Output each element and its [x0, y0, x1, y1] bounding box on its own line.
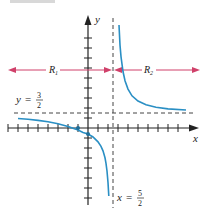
y-axis	[84, 15, 92, 205]
rational-function-graph: y x y = 3 2 x = 5 2 R1 R2	[0, 0, 210, 216]
svg-text:5: 5	[138, 189, 142, 198]
svg-text:2: 2	[138, 199, 142, 208]
curve-left-branch	[18, 119, 109, 197]
region-r2-arrow	[114, 67, 200, 73]
svg-text:=: =	[25, 93, 31, 105]
svg-text:3: 3	[37, 91, 41, 100]
cut-heading	[10, 0, 55, 3]
x-intercept-point	[76, 126, 80, 130]
svg-text:=: =	[126, 191, 132, 203]
svg-text:x: x	[116, 191, 122, 203]
svg-text:y: y	[15, 93, 21, 105]
region-r1-arrow	[8, 67, 112, 73]
curve-right-branch	[119, 25, 186, 110]
arrow-left-icon	[114, 67, 122, 73]
region-r2-label: R2	[143, 64, 153, 76]
arrow-right-icon	[192, 67, 200, 73]
arrow-left-icon	[8, 67, 16, 73]
svg-text:2: 2	[37, 101, 41, 110]
y-intercept-point	[86, 132, 90, 136]
x-axis-arrow-icon	[189, 125, 199, 132]
vertical-asymptote-label: x = 5 2	[116, 189, 144, 208]
arrow-right-icon	[104, 67, 112, 73]
x-axis-label: x	[192, 132, 198, 144]
horizontal-asymptote-label: y = 3 2	[15, 91, 43, 110]
x-axis	[8, 124, 199, 132]
y-axis-arrow-icon	[85, 15, 92, 25]
y-axis-label: y	[94, 13, 100, 25]
region-r1-label: R1	[48, 64, 58, 76]
